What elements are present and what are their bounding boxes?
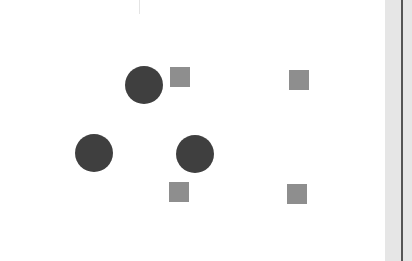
circle-3 [176, 135, 214, 173]
figure-canvas [0, 0, 412, 261]
square-3 [169, 182, 189, 202]
square-1 [170, 67, 190, 87]
square-4 [287, 184, 307, 204]
scan-artifact-line [139, 0, 140, 14]
page-margin-strip [385, 0, 412, 261]
square-2 [289, 70, 309, 90]
page-edge-line [401, 0, 403, 261]
circle-1 [125, 66, 163, 104]
circle-2 [75, 134, 113, 172]
